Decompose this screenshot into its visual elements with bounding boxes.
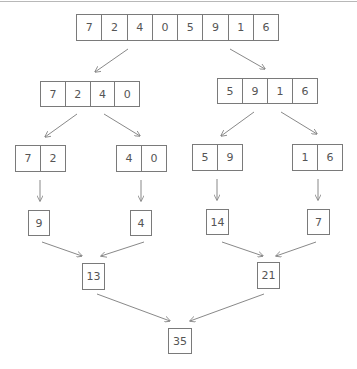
sum-box-3: 14 (206, 209, 229, 235)
sum-box-right: 21 (257, 262, 280, 289)
array-cell: 7 (77, 15, 101, 40)
array-cell: 1 (228, 15, 253, 40)
array-cell: 2 (65, 82, 90, 106)
arrow-merge-14 (222, 242, 263, 256)
arrow-split-right-left (221, 112, 254, 136)
array-cell: 2 (101, 15, 126, 40)
array-cell: 0 (141, 146, 166, 171)
top-border-line (0, 1, 357, 2)
array-cell: 1 (267, 79, 292, 103)
array-cell: 0 (114, 82, 139, 106)
array-cell: 5 (177, 15, 202, 40)
array-cell: 4 (90, 82, 115, 106)
arrow-split-left-right (104, 114, 140, 136)
arrow-split-right-right (281, 112, 317, 134)
arrow-merge-21 (190, 294, 264, 321)
array-cell: 5 (193, 145, 217, 170)
array-level1-right: 5 9 1 6 (217, 78, 318, 104)
array-cell: 6 (317, 145, 342, 170)
array-cell: 9 (202, 15, 227, 40)
array-level2-2: 4 0 (116, 145, 167, 172)
arrow-split-left-left (45, 114, 77, 137)
array-cell: 6 (292, 79, 317, 103)
array-level2-3: 5 9 (192, 144, 243, 171)
arrow-merge-7 (276, 242, 316, 256)
array-cell: 1 (293, 145, 317, 170)
sum-box-1: 9 (28, 210, 50, 236)
array-cell: 4 (117, 146, 141, 171)
array-level1-left: 7 2 4 0 (40, 81, 140, 107)
array-level0: 7 2 4 0 5 9 1 6 (76, 14, 279, 41)
array-level2-1: 7 2 (15, 145, 66, 172)
arrow-split-left (95, 49, 128, 72)
array-cell: 9 (242, 79, 267, 103)
array-cell: 5 (218, 79, 242, 103)
arrow-merge-9 (42, 242, 82, 256)
array-cell: 6 (253, 15, 278, 40)
arrow-merge-4 (101, 242, 144, 256)
arrow-split-right (230, 49, 265, 69)
array-cell: 7 (41, 82, 65, 106)
array-cell: 7 (16, 146, 40, 171)
array-cell: 0 (152, 15, 177, 40)
sum-box-4: 7 (307, 209, 330, 235)
edges-layer (0, 0, 357, 369)
array-cell: 4 (127, 15, 152, 40)
sum-box-total: 35 (168, 328, 192, 354)
array-level2-4: 1 6 (292, 144, 343, 171)
array-cell: 9 (217, 145, 242, 170)
array-cell: 2 (40, 146, 65, 171)
sum-box-left: 13 (82, 263, 105, 290)
arrow-merge-13 (97, 294, 170, 321)
sum-box-2: 4 (130, 210, 152, 236)
